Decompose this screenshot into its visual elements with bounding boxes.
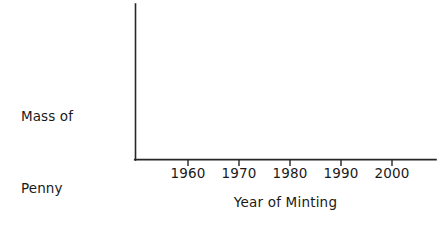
- y-axis-label: Mass of Penny: [21, 56, 126, 225]
- y-axis-label-line-2: Penny: [21, 176, 126, 200]
- x-axis-title: Year of Minting: [135, 194, 436, 210]
- x-tick-label-2000: 2000: [362, 165, 422, 181]
- plot-area: [136, 5, 436, 159]
- y-axis-label-line-1: Mass of: [21, 104, 126, 128]
- chart-screenshot: Mass of Penny 1960 1970 1980 1990 2000 Y…: [0, 0, 446, 225]
- mass-of-penny-chart: Mass of Penny 1960 1970 1980 1990 2000 Y…: [0, 0, 446, 225]
